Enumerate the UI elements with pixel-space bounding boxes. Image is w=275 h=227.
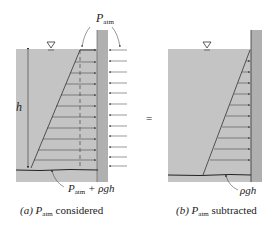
- free-surface-icon-a: [47, 42, 55, 50]
- equals-sign: =: [146, 112, 152, 124]
- wall-a: [97, 30, 108, 182]
- bottom-pressure-label-b: ρgh: [240, 184, 256, 196]
- wall-b: [251, 30, 262, 182]
- hydrostatic-diagram: [0, 0, 275, 227]
- atm-arrows-outside: [109, 50, 127, 166]
- free-surface-icon-b: [203, 42, 211, 50]
- depth-label: h: [16, 100, 22, 115]
- patm-top-label: Patm: [96, 11, 114, 26]
- caption-a: (a) Patm considered: [20, 204, 103, 218]
- caption-b: (b) Patm subtracted: [176, 204, 257, 218]
- fluid-region-b: [168, 49, 251, 182]
- bottom-pressure-label-a: Patm + ρgh: [68, 182, 114, 196]
